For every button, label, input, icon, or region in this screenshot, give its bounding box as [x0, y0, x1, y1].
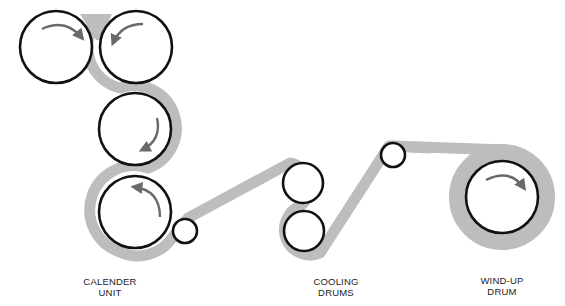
- guide-roller-2: [381, 143, 405, 167]
- label-wind-up-drum: WIND-UP DRUM: [462, 275, 542, 297]
- calender-process-diagram: [0, 0, 565, 306]
- calender-roll-2: [100, 11, 172, 83]
- cooling-drum-1: [283, 163, 323, 203]
- label-cooling-drums: COOLING DRUMS: [296, 276, 376, 298]
- label-calender-unit: CALENDER UNIT: [70, 276, 150, 298]
- web-to-windup: [393, 146, 505, 150]
- calender-roll-3: [99, 93, 171, 165]
- calender-roll-1: [20, 11, 92, 83]
- cooling-drum-2: [284, 211, 324, 251]
- guide-roller-1: [173, 219, 197, 243]
- wind-up-drum: [466, 161, 538, 233]
